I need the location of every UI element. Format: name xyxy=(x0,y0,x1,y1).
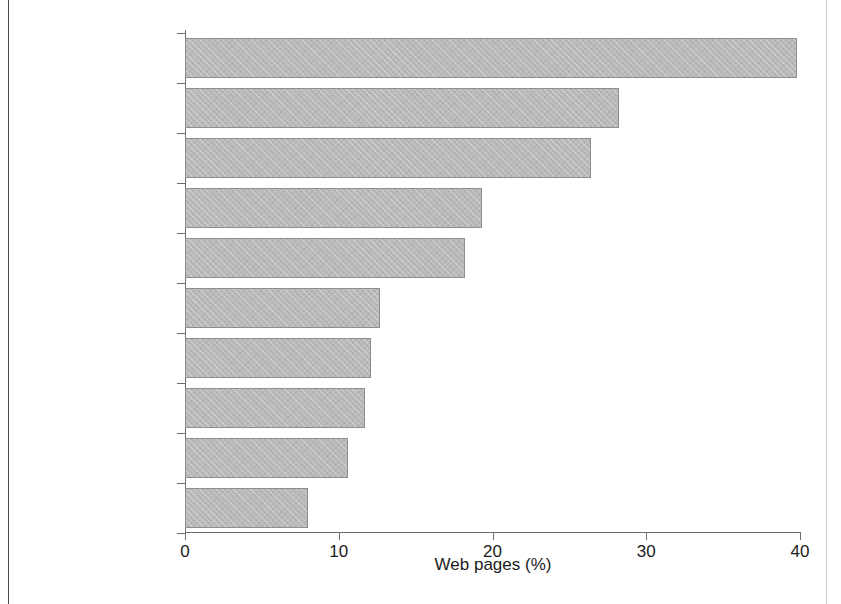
x-axis-tick xyxy=(339,532,340,540)
y-axis-tick xyxy=(177,433,185,434)
y-axis-tick xyxy=(177,233,185,234)
bar-row: Meeting xyxy=(185,238,800,278)
page-edge-line-right xyxy=(826,0,827,604)
bar-row: Hunting xyxy=(185,388,800,428)
x-axis-tick-label: 20 xyxy=(463,542,523,562)
y-axis-tick xyxy=(177,183,185,184)
y-axis-tick xyxy=(177,283,185,284)
bar-row: Trade xyxy=(185,338,800,378)
x-axis-tick xyxy=(800,532,801,540)
bar xyxy=(185,488,308,528)
bar-row: Protected areas xyxy=(185,438,800,478)
x-axis-tick-label: 0 xyxy=(155,542,215,562)
bar xyxy=(185,188,482,228)
y-axis-tick xyxy=(177,533,185,534)
bar xyxy=(185,88,619,128)
bar-row: Controversy xyxy=(185,188,800,228)
x-axis-tick xyxy=(646,532,647,540)
page-edge-line-left xyxy=(8,0,9,604)
bar-row: Technology xyxy=(185,288,800,328)
y-axis-tick xyxy=(177,383,185,384)
y-axis-tick xyxy=(177,483,185,484)
bar xyxy=(185,38,797,78)
x-axis-tick-label: 30 xyxy=(616,542,676,562)
bar-row: Call for action xyxy=(185,38,800,78)
x-axis-tick-label: 40 xyxy=(770,542,830,562)
y-axis-tick xyxy=(177,333,185,334)
bar-row: Publication xyxy=(185,88,800,128)
y-axis-tick xyxy=(177,33,185,34)
bar xyxy=(185,238,465,278)
bar xyxy=(185,338,371,378)
y-axis-tick xyxy=(177,133,185,134)
x-axis-tick-label: 10 xyxy=(309,542,369,562)
x-axis-tick xyxy=(493,532,494,540)
bar xyxy=(185,288,380,328)
bar xyxy=(185,438,348,478)
plot-area: Call for actionPublicationDiscoveryContr… xyxy=(185,30,800,532)
bar xyxy=(185,138,591,178)
bar-row: Discovery xyxy=(185,138,800,178)
x-axis-tick xyxy=(185,532,186,540)
bar-row: Poaching xyxy=(185,488,800,528)
bar xyxy=(185,388,365,428)
y-axis-tick xyxy=(177,83,185,84)
figure-canvas: Call for actionPublicationDiscoveryContr… xyxy=(0,0,841,604)
